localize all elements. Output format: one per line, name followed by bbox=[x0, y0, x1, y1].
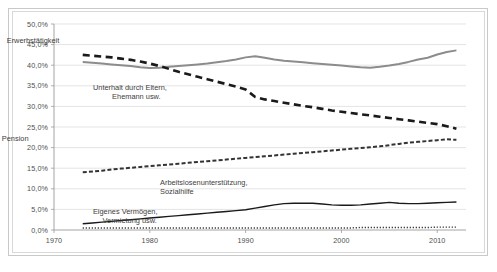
x-tick-label: 1990 bbox=[222, 236, 270, 245]
series-annotation-label: Sozialhilfe bbox=[160, 187, 194, 197]
y-tick-label: 5,0% bbox=[8, 205, 48, 214]
chart-container: 0,0%5,0%10,0%15,0%20,0%25,0%30,0%35,0%40… bbox=[0, 0, 497, 272]
y-tick-label: 40,0% bbox=[8, 61, 48, 70]
series-annotation-label: Erwerbstätigkeit bbox=[7, 36, 60, 46]
y-tick-label: 35,0% bbox=[8, 81, 48, 90]
x-tick-label: 2010 bbox=[413, 236, 461, 245]
x-tick-label: 1980 bbox=[126, 236, 174, 245]
series-annotation-label: Ehemann usw. bbox=[112, 92, 160, 102]
x-tick-label: 1970 bbox=[30, 236, 78, 245]
y-tick-label: 20,0% bbox=[8, 143, 48, 152]
y-tick-label: 50,0% bbox=[8, 20, 48, 29]
y-tick-label: 15,0% bbox=[8, 164, 48, 173]
series-annotation-label: Arbeitslosenunterstützung, bbox=[160, 178, 248, 188]
series-annotation-label: Rente, Pension bbox=[0, 134, 29, 144]
y-tick-label: 25,0% bbox=[8, 123, 48, 132]
y-tick-label: 10,0% bbox=[8, 184, 48, 193]
x-tick-label: 2000 bbox=[317, 236, 365, 245]
series-line-4 bbox=[83, 227, 457, 228]
series-annotation-label: Unterhalt durch Eltern, bbox=[93, 83, 167, 93]
y-tick-label: 0,0% bbox=[8, 226, 48, 235]
y-tick-label: 30,0% bbox=[8, 102, 48, 111]
gridlines bbox=[54, 24, 466, 230]
line-chart-plot bbox=[0, 0, 497, 272]
series-line-2 bbox=[83, 139, 457, 172]
series-annotation-label: Vermietung usw. bbox=[103, 216, 157, 226]
